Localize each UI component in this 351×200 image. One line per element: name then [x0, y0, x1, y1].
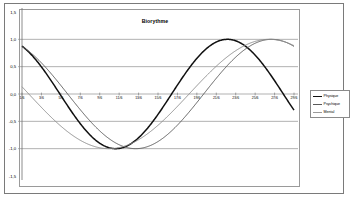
x-tick-label: 7/6 [78, 96, 83, 100]
y-axis-tick-labels: 1,51,00,50,0-0,5-1,0-1,5 [9, 10, 17, 179]
x-tick-label: 17/6 [174, 96, 181, 100]
x-tick-label: 27/6 [271, 96, 278, 100]
x-tick-label: 25/6 [252, 96, 259, 100]
x-tick-label: 3/6 [39, 96, 44, 100]
x-tick-label: 23/6 [232, 96, 239, 100]
y-tick-label: 1,0 [10, 37, 16, 42]
y-tick-label: 1,5 [10, 10, 16, 15]
y-tick-label: -1,5 [9, 174, 17, 179]
x-tick-label: 21/6 [213, 96, 220, 100]
x-tick-label: 15/6 [155, 96, 162, 100]
chart-canvas: 1,51,00,50,0-0,5-1,0-1,5 1/63/65/67/69/6… [0, 0, 351, 200]
x-tick-label: 9/6 [97, 96, 102, 100]
x-tick-label: 13/6 [135, 96, 142, 100]
y-tick-label: -1,0 [9, 146, 17, 151]
y-tick-label: -0,5 [9, 119, 17, 124]
y-tick-label: 0,0 [10, 92, 16, 97]
x-tick-label: 11/6 [116, 96, 123, 100]
x-tick-label: 1/6 [20, 96, 25, 100]
y-tick-label: 0,5 [10, 64, 16, 69]
x-tick-label: 29/6 [291, 96, 298, 100]
